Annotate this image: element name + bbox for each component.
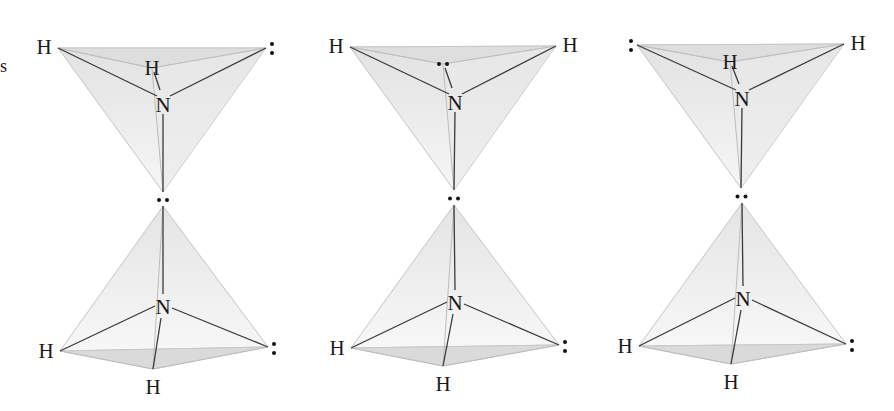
panel-1: HHNHHN: [36, 35, 276, 399]
top-left-atom: H: [36, 35, 51, 59]
bottom-tetrahedron: HHN: [38, 206, 276, 399]
bottom-right-atom: [272, 342, 276, 355]
top-nitrogen: N: [155, 93, 170, 117]
bottom-nitrogen: N: [447, 291, 462, 315]
bottom-front-atom: H: [435, 372, 450, 396]
top-nitrogen: N: [447, 91, 462, 115]
top-left-atom: H: [328, 34, 343, 58]
bottom-right-atom: [850, 339, 854, 352]
top-tetrahedron: HHN: [629, 31, 866, 188]
top-tetrahedron: HHN: [328, 33, 577, 190]
bottom-front-atom: H: [723, 370, 738, 394]
panel-3: HHNHHN: [617, 31, 865, 394]
bottom-front-atom: H: [145, 375, 160, 399]
junction-lone-pair: [157, 198, 169, 202]
panel-2: HHNHHN: [328, 33, 577, 396]
junction-lone-pair: [736, 195, 748, 199]
top-tetrahedron: HHN: [36, 35, 274, 192]
top-right-atom: H: [562, 33, 577, 57]
top-nitrogen: N: [734, 87, 749, 111]
top-right-atom: [270, 42, 274, 55]
ammonia-tetrahedra-diagram: HHNHHNHHNHHNHHNHHN: [0, 0, 894, 411]
bottom-tetrahedron: HHN: [329, 205, 567, 396]
junction-lone-pair: [448, 197, 460, 201]
bottom-left-atom: H: [38, 339, 53, 363]
bottom-left-atom: H: [329, 336, 344, 360]
top-back-atom: H: [722, 50, 737, 74]
bottom-left-atom: H: [617, 334, 632, 358]
bottom-tetrahedron: HHN: [617, 203, 854, 394]
top-right-atom: H: [850, 31, 865, 55]
bottom-right-atom: [563, 340, 567, 353]
top-back-atom: H: [144, 56, 159, 80]
bottom-nitrogen: N: [155, 295, 170, 319]
top-left-atom: [629, 39, 633, 52]
bottom-nitrogen: N: [735, 287, 750, 311]
